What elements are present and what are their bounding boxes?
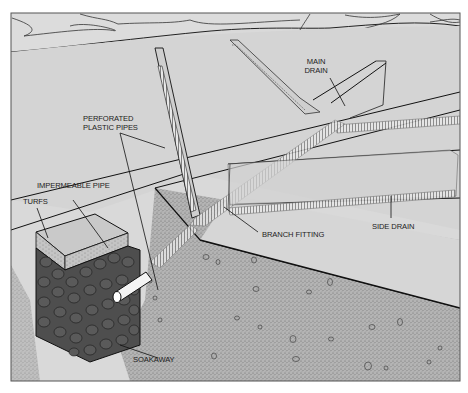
label-impermeable-pipe: IMPERMEABLE PIPE bbox=[37, 181, 110, 190]
label-main-drain-line2: DRAIN bbox=[296, 66, 336, 75]
label-branch-fitting: BRANCH FITTING bbox=[262, 230, 324, 239]
label-perforated-line1: PERFORATED bbox=[83, 114, 138, 123]
label-side-drain: SIDE DRAIN bbox=[372, 222, 414, 231]
label-soakaway: SOAKAWAY bbox=[133, 355, 175, 364]
drainage-diagram bbox=[0, 0, 468, 393]
label-main-drain: MAIN DRAIN bbox=[296, 57, 336, 75]
label-perforated-line2: PLASTIC PIPES bbox=[83, 123, 138, 132]
label-turfs: TURFS bbox=[23, 197, 48, 206]
label-main-drain-line1: MAIN bbox=[296, 57, 336, 66]
label-perforated-plastic-pipes: PERFORATED PLASTIC PIPES bbox=[83, 114, 138, 132]
